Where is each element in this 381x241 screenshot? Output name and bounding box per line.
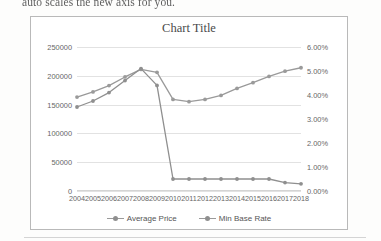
data-point-marker	[219, 93, 223, 97]
data-point-marker	[171, 98, 175, 102]
x-axis-tick-label: 2012	[197, 194, 213, 203]
right-axis-tick-label: 5.00%	[307, 67, 328, 76]
chart-legend: Average Price Min Base Rate	[31, 214, 347, 223]
data-point-marker	[187, 177, 191, 181]
x-axis-tick-label: 2013	[213, 194, 229, 203]
data-point-marker	[235, 87, 239, 91]
x-axis-tick-label: 2006	[101, 194, 117, 203]
x-axis-tick-label: 2008	[133, 194, 149, 203]
line-marker-icon	[199, 215, 216, 222]
x-axis-tick-label: 2011	[181, 194, 196, 203]
data-point-marker	[235, 177, 239, 181]
right-axis-tick-label: 6.00%	[307, 43, 328, 52]
data-point-marker	[203, 98, 207, 102]
x-axis-tick-label: 2004	[69, 194, 85, 203]
chart-title: Chart Title	[31, 21, 347, 36]
x-axis-tick-label: 2017	[277, 194, 293, 203]
data-point-marker	[251, 81, 255, 85]
data-point-marker	[75, 95, 79, 99]
data-point-marker	[219, 177, 223, 181]
data-point-marker	[267, 177, 271, 181]
plot-area: 050000100000150000200000250000 0.00%1.00…	[77, 47, 301, 191]
series-layer	[77, 47, 301, 191]
right-axis-tick-label: 0.00%	[307, 187, 328, 196]
data-point-marker	[75, 105, 79, 109]
series-average-price	[75, 66, 303, 104]
left-axis-tick-label: 150000	[47, 100, 72, 109]
data-point-marker	[283, 69, 287, 73]
legend-label: Min Base Rate	[219, 214, 271, 223]
left-axis-tick-label: 200000	[47, 71, 72, 80]
data-point-marker	[251, 177, 255, 181]
data-point-marker	[187, 100, 191, 104]
x-axis-tick-label: 2009	[149, 194, 165, 203]
legend-item-min-base-rate[interactable]: Min Base Rate	[199, 214, 271, 223]
chart-container: Chart Title 0500001000001500002000002500…	[30, 16, 348, 230]
right-axis-tick-label: 3.00%	[307, 115, 328, 124]
line-marker-icon	[107, 215, 124, 222]
data-point-marker	[299, 66, 303, 70]
right-axis-tick-label: 1.00%	[307, 163, 328, 172]
left-axis-tick-label: 250000	[47, 43, 72, 52]
x-axis-tick-label: 2018	[293, 194, 309, 203]
x-axis-tick-label: 2010	[165, 194, 181, 203]
data-point-marker	[139, 67, 143, 71]
data-point-marker	[155, 84, 159, 88]
data-point-marker	[107, 91, 111, 95]
legend-label: Average Price	[127, 214, 177, 223]
x-axis-tick-label: 2014	[229, 194, 245, 203]
data-point-marker	[91, 99, 95, 103]
document-text-line: auto scales the new axis for you.	[22, 0, 362, 12]
data-point-marker	[203, 177, 207, 181]
left-axis-tick-label: 100000	[47, 129, 72, 138]
x-axis-tick-label: 2016	[261, 194, 277, 203]
page-divider	[24, 237, 366, 238]
data-point-marker	[155, 70, 159, 74]
right-axis-tick-label: 2.00%	[307, 139, 328, 148]
data-point-marker	[123, 75, 127, 79]
data-point-marker	[171, 177, 175, 181]
x-axis-tick-label: 2005	[85, 194, 101, 203]
gridline	[77, 191, 301, 192]
data-point-marker	[107, 84, 111, 88]
x-axis-tick-label: 2015	[245, 194, 261, 203]
legend-item-average-price[interactable]: Average Price	[107, 214, 177, 223]
x-axis-tick-label: 2007	[117, 194, 133, 203]
scanned-page: auto scales the new axis for you. Chart …	[0, 0, 381, 241]
data-point-marker	[123, 79, 127, 83]
left-axis-tick-label: 50000	[51, 158, 72, 167]
data-point-marker	[283, 181, 287, 185]
data-point-marker	[91, 90, 95, 94]
data-point-marker	[267, 74, 271, 78]
data-point-marker	[299, 182, 303, 186]
right-axis-tick-label: 4.00%	[307, 91, 328, 100]
